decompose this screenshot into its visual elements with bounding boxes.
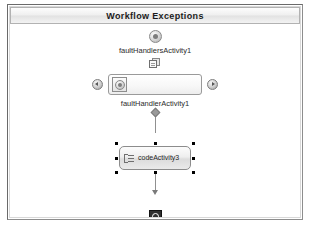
code-activity-container: codeActivity3 — [10, 109, 300, 195]
workflow-canvas[interactable]: faultHandlersActivity1 faultHandlerActiv… — [10, 25, 300, 217]
pages-icon[interactable] — [149, 58, 161, 69]
selection-frame[interactable]: codeActivity3 — [115, 142, 195, 174]
selection-handle[interactable] — [115, 157, 118, 160]
code-activity-node[interactable]: codeActivity3 — [119, 146, 191, 170]
connector-line-top — [155, 116, 156, 133]
exception-start-icon[interactable] — [149, 30, 162, 43]
workflow-terminator-icon[interactable] — [149, 210, 162, 217]
selection-handle[interactable] — [192, 171, 195, 174]
page-title: Workflow Exceptions — [106, 11, 204, 21]
code-activity-icon — [124, 153, 135, 164]
selection-handle[interactable] — [115, 142, 118, 145]
arrow-down-icon — [152, 190, 158, 195]
designer-title-bar: Workflow Exceptions — [10, 7, 300, 24]
terminator-container — [10, 210, 300, 217]
connector-line-bottom — [155, 174, 156, 190]
fault-handlers-track[interactable] — [108, 74, 202, 95]
chevron-left-icon[interactable] — [92, 79, 103, 90]
chevron-right-icon[interactable] — [207, 79, 218, 90]
start-icon-container — [10, 30, 300, 43]
workflow-designer-window: Workflow Exceptions faultHandlersActivit… — [7, 4, 303, 220]
fault-handlers-strip[interactable] — [10, 74, 300, 95]
selection-handle[interactable] — [115, 171, 118, 174]
fault-handler-tile[interactable] — [112, 77, 127, 92]
selection-handle[interactable] — [192, 142, 195, 145]
fault-handler-tile-icon — [115, 80, 125, 90]
fault-handlers-header: faultHandlersActivity1 — [10, 46, 300, 69]
fault-handlers-label: faultHandlersActivity1 — [119, 46, 191, 56]
selection-handle[interactable] — [192, 157, 195, 160]
diamond-connector-icon — [150, 108, 160, 118]
selection-handle[interactable] — [154, 142, 157, 145]
selection-handle[interactable] — [154, 171, 157, 174]
code-activity-label: codeActivity3 — [138, 154, 179, 162]
